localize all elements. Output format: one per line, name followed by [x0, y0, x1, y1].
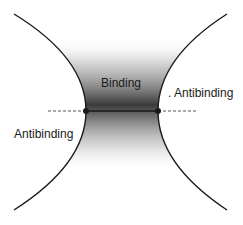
hyperbola-diagram: Binding . Antibinding Antibinding: [0, 0, 243, 225]
antibinding-left-label: Antibinding: [14, 128, 73, 140]
binding-label: Binding: [101, 77, 141, 89]
binding-region-shading: [0, 38, 243, 172]
antibinding-right-label: . Antibinding: [168, 87, 233, 99]
nucleus-left-dot: [83, 108, 89, 114]
nucleus-right-dot: [155, 108, 161, 114]
diagram-svg: [0, 0, 243, 225]
